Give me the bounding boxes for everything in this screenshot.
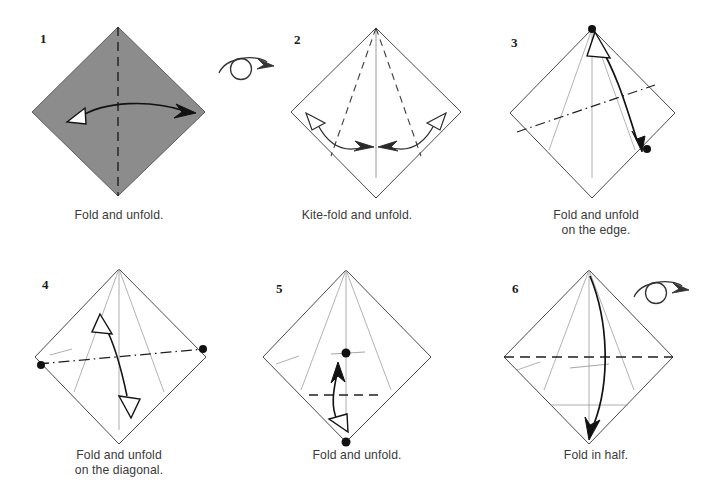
step-3: 3 Fold and unfold on the edge. [477, 0, 715, 243]
step-4: 4 Fold and unfold on the diagonal. [0, 252, 238, 487]
reference-dot-top [588, 25, 596, 33]
step-1: 1 Fold and unfold. [0, 0, 238, 243]
step-2-figure [238, 0, 476, 210]
step-6-caption: Fold in half. [477, 448, 715, 463]
step-4-figure [0, 252, 238, 452]
step-3-figure [477, 0, 715, 210]
reference-dot-bottom [342, 438, 351, 447]
step-6-caption-line1: Fold in half. [564, 448, 628, 462]
step-3-caption: Fold and unfold on the edge. [477, 208, 715, 238]
step-2-caption: Kite-fold and unfold. [238, 208, 476, 223]
turn-over-symbol-step-6 [625, 268, 705, 318]
step-1-caption: Fold and unfold. [0, 208, 238, 223]
step-6: 6 Fold in half. [477, 252, 715, 487]
turn-over-circle-icon [646, 283, 667, 304]
step-4-caption: Fold and unfold on the diagonal. [0, 448, 238, 478]
reference-dot-right [643, 145, 651, 153]
step-5-caption: Fold and unfold. [238, 448, 476, 463]
step-1-caption-line1: Fold and unfold. [74, 208, 163, 222]
step-3-caption-line2: on the edge. [477, 223, 715, 238]
step-4-caption-line1: Fold and unfold [76, 448, 162, 462]
reference-dot-left [37, 361, 45, 369]
step-1-figure [0, 0, 238, 210]
step-2: 2 Kite-fold and unfold. [238, 0, 476, 243]
step-5-figure [238, 252, 476, 452]
step-3-caption-line1: Fold and unfold [553, 208, 639, 222]
reference-dot-center [342, 349, 351, 358]
step-5: 5 Fold and unfold. [238, 252, 476, 487]
origami-diagram-sheet: 1 Fold and unfold. 2 [0, 0, 715, 487]
step-2-caption-line1: Kite-fold and unfold. [302, 208, 413, 222]
step-4-caption-line2: on the diagonal. [0, 463, 238, 478]
step-5-caption-line1: Fold and unfold. [312, 448, 401, 462]
reference-dot-right [199, 345, 207, 353]
